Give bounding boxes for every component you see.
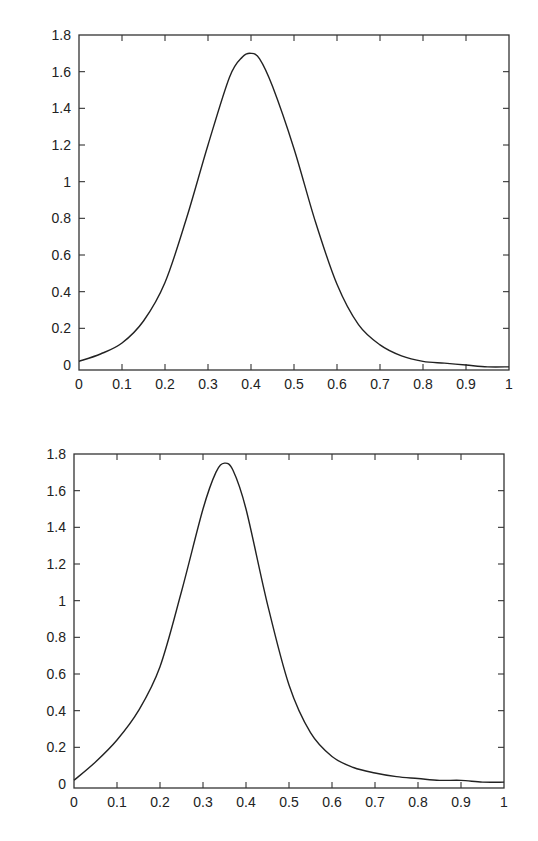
x-tick-label: 0.3 <box>198 376 218 392</box>
y-tick-label: 0 <box>63 357 71 373</box>
x-tick-label: 0.5 <box>284 376 304 392</box>
x-tick-label: 0.4 <box>241 376 261 392</box>
x-tick-label: 0.3 <box>193 794 213 810</box>
y-tick-label: 1.6 <box>52 64 72 80</box>
x-tick-label: 0.5 <box>279 794 299 810</box>
y-tick-label: 0.2 <box>47 739 67 755</box>
x-tick-label: 0.9 <box>456 376 476 392</box>
x-tick-label: 0.2 <box>150 794 170 810</box>
x-tick-label: 0.6 <box>327 376 347 392</box>
y-tick-label: 1.4 <box>52 100 72 116</box>
x-tick-label: 0.7 <box>370 376 390 392</box>
plot-frame <box>74 454 504 788</box>
x-tick-label: 1 <box>500 794 508 810</box>
x-tick-label: 0.2 <box>155 376 175 392</box>
curve-line <box>79 53 509 367</box>
x-tick-label: 1 <box>505 376 513 392</box>
y-tick-label: 0.4 <box>47 703 67 719</box>
y-tick-label: 0.8 <box>47 629 67 645</box>
x-tick-label: 0.6 <box>322 794 342 810</box>
y-tick-label: 0.6 <box>52 247 72 263</box>
plot-frame <box>79 35 509 370</box>
x-tick-label: 0.1 <box>112 376 132 392</box>
y-tick-label: 0.2 <box>52 320 72 336</box>
x-tick-label: 0.9 <box>451 794 471 810</box>
figure-canvas: 00.10.20.30.40.50.60.70.80.9100.20.40.60… <box>0 0 538 841</box>
x-tick-label: 0.1 <box>107 794 127 810</box>
curve-line <box>74 463 504 782</box>
y-tick-label: 0.8 <box>52 210 72 226</box>
y-tick-label: 0 <box>58 776 66 792</box>
y-tick-label: 0.4 <box>52 284 72 300</box>
y-tick-label: 1 <box>63 174 71 190</box>
x-tick-label: 0.8 <box>413 376 433 392</box>
y-tick-label: 1.2 <box>47 556 67 572</box>
y-tick-label: 1.2 <box>52 137 72 153</box>
bottom-chart: 00.10.20.30.40.50.60.70.80.9100.20.40.60… <box>47 446 509 810</box>
x-tick-label: 0 <box>70 794 78 810</box>
x-tick-label: 0.4 <box>236 794 256 810</box>
top-chart: 00.10.20.30.40.50.60.70.80.9100.20.40.60… <box>52 27 514 392</box>
x-tick-label: 0.8 <box>408 794 428 810</box>
y-tick-label: 1.4 <box>47 519 67 535</box>
y-tick-label: 1.8 <box>47 446 67 462</box>
y-tick-label: 1.8 <box>52 27 72 43</box>
x-tick-label: 0 <box>75 376 83 392</box>
y-tick-label: 1 <box>58 593 66 609</box>
y-tick-label: 0.6 <box>47 666 67 682</box>
y-tick-label: 1.6 <box>47 483 67 499</box>
x-tick-label: 0.7 <box>365 794 385 810</box>
